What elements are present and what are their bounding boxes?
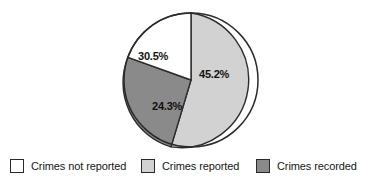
chart-legend: Crimes not reported Crimes reported Crim… bbox=[0, 151, 370, 187]
legend-item-crimes-not-reported[interactable]: Crimes not reported bbox=[10, 156, 126, 176]
legend-label: Crimes reported bbox=[162, 160, 239, 172]
pie-chart: 30.5% 45.2% 24.3% bbox=[0, 0, 370, 150]
pie-label-crimes-reported: 45.2% bbox=[199, 68, 229, 80]
legend-label: Crimes recorded bbox=[277, 160, 357, 172]
legend-swatch-icon bbox=[10, 159, 24, 173]
legend-item-crimes-recorded[interactable]: Crimes recorded bbox=[256, 156, 357, 176]
pie-label-crimes-recorded: 24.3% bbox=[152, 100, 182, 112]
legend-label: Crimes not reported bbox=[31, 160, 126, 172]
pie-chart-svg bbox=[0, 0, 370, 150]
pie-label-crimes-not-reported: 30.5% bbox=[138, 50, 168, 62]
legend-item-crimes-reported[interactable]: Crimes reported bbox=[141, 156, 239, 176]
legend-swatch-icon bbox=[256, 159, 270, 173]
legend-swatch-icon bbox=[141, 159, 155, 173]
